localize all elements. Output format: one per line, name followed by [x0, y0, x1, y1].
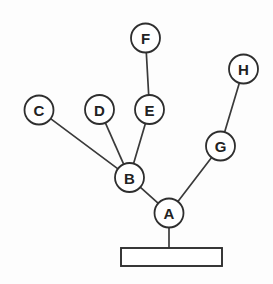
- edge-a-g: [178, 157, 212, 202]
- diagram-canvas: ABCDEFGH: [0, 0, 273, 284]
- base-platform: [121, 248, 222, 266]
- node-f[interactable]: F: [131, 24, 160, 53]
- tree-diagram: ABCDEFGH: [0, 0, 273, 284]
- node-h[interactable]: H: [229, 55, 258, 84]
- node-label-d: D: [94, 102, 105, 119]
- node-label-b: B: [124, 170, 135, 187]
- node-e[interactable]: E: [135, 95, 164, 124]
- edge-d-b: [105, 122, 124, 164]
- node-a[interactable]: A: [155, 199, 184, 228]
- node-c[interactable]: C: [25, 96, 54, 125]
- node-d[interactable]: D: [85, 95, 114, 124]
- edges-group: [50, 52, 239, 204]
- node-b[interactable]: B: [115, 163, 144, 192]
- node-label-e: E: [144, 102, 154, 119]
- node-label-f: F: [141, 30, 150, 47]
- node-label-h: H: [238, 61, 249, 78]
- node-g[interactable]: G: [206, 132, 235, 161]
- edge-f-e: [146, 52, 148, 96]
- node-label-c: C: [34, 102, 45, 119]
- node-label-g: G: [215, 138, 227, 155]
- node-label-a: A: [164, 205, 175, 222]
- edge-b-a: [140, 187, 159, 204]
- edge-e-b: [133, 123, 145, 164]
- edge-g-h: [225, 82, 240, 132]
- edge-c-b: [50, 118, 118, 169]
- base-group: [121, 228, 222, 267]
